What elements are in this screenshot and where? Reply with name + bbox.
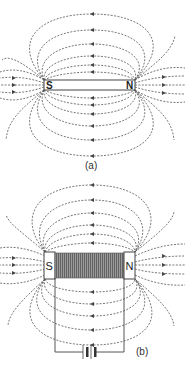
- field-lines-lower: [0, 85, 185, 156]
- south-pole-label: S: [46, 80, 53, 91]
- north-pole-label: N: [126, 80, 133, 91]
- north-pole-label-b: N: [126, 260, 134, 272]
- figure-a-bar-magnet: S N (a): [0, 12, 185, 171]
- circuit-wire-left: [55, 278, 83, 352]
- bar-magnet: [44, 80, 135, 90]
- battery-icon: [83, 345, 97, 359]
- field-lines-upper-b: [0, 185, 185, 262]
- magnetic-field-diagram: S N (a): [0, 0, 185, 373]
- solenoid-coil: [55, 253, 124, 278]
- caption-b: (b): [136, 346, 148, 357]
- caption-a: (a): [85, 160, 97, 171]
- south-pole-label-b: S: [46, 260, 53, 272]
- figure-b-electromagnet: S N (b): [0, 183, 185, 359]
